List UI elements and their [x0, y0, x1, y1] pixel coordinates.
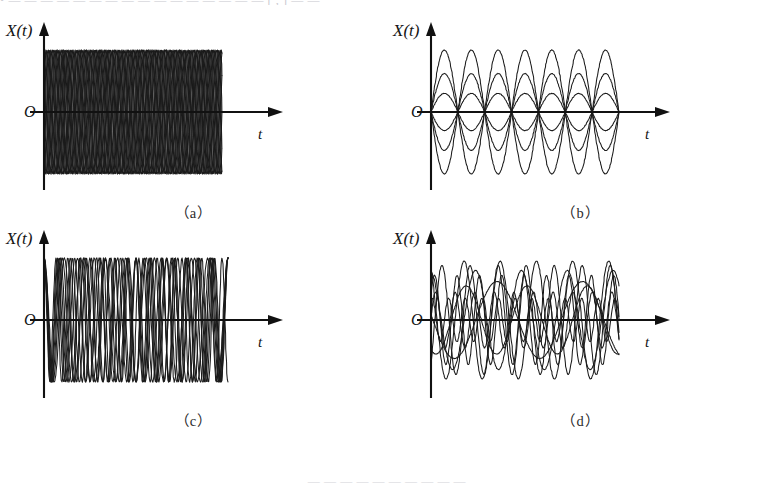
x-axis-label: t: [645, 334, 650, 350]
panel-c-caption: （c）: [0, 409, 387, 430]
panel-d: X(t)Ot （d）: [387, 228, 774, 446]
panel-a: X(t)Ot （a）: [0, 20, 387, 238]
panel-c-plot: X(t)Ot: [0, 228, 387, 408]
panel-b: X(t)Ot （b）: [387, 20, 774, 238]
figure-grid: X(t)Ot （a） X(t)Ot （b） X(t)Ot （c） X(t)Ot …: [0, 0, 774, 486]
origin-label: O: [24, 311, 36, 328]
y-axis-label: X(t): [392, 21, 420, 40]
panel-c: X(t)Ot （c）: [0, 228, 387, 446]
x-axis-label: t: [645, 126, 650, 142]
origin-label: O: [24, 103, 36, 120]
panel-a-caption: （a）: [0, 201, 387, 222]
panel-b-plot: X(t)Ot: [387, 20, 774, 200]
y-axis-label: X(t): [5, 229, 33, 248]
panel-a-plot: X(t)Ot: [0, 20, 387, 200]
y-axis-label: X(t): [392, 229, 420, 248]
x-axis-label: t: [258, 126, 263, 142]
x-axis-label: t: [258, 334, 263, 350]
origin-label: O: [411, 311, 423, 328]
y-axis-label: X(t): [5, 21, 33, 40]
origin-label: O: [411, 103, 423, 120]
panel-d-caption: （d）: [387, 409, 774, 430]
panel-b-caption: （b）: [387, 201, 774, 222]
panel-d-plot: X(t)Ot: [387, 228, 774, 408]
